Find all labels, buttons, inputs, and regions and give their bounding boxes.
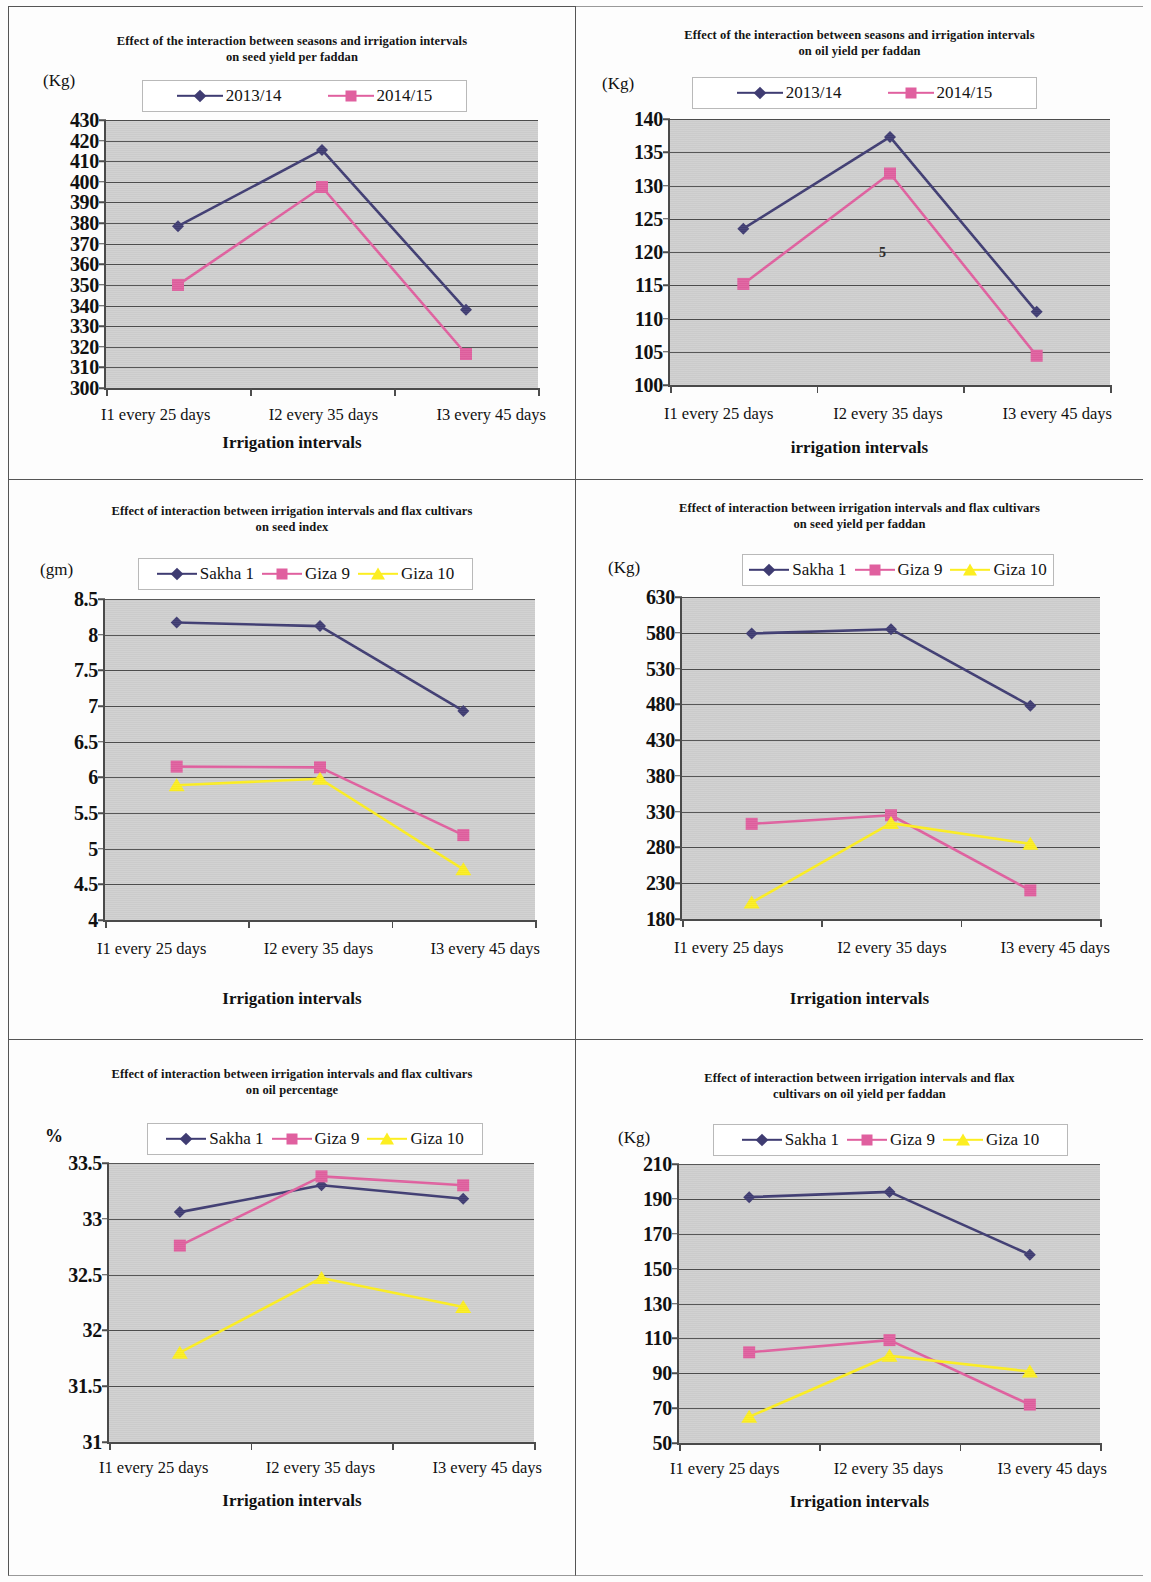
legend-marker-triangle-icon	[371, 567, 385, 579]
y-axis-tick-label: 140	[634, 108, 663, 131]
legend-marker-diamond-icon	[755, 1134, 768, 1147]
y-axis-tick-mark	[672, 1268, 679, 1270]
chart-title: Effect of interaction between irrigation…	[599, 1040, 1121, 1102]
x-axis-category-labels: I1 every 25 daysI2 every 35 daysI3 every…	[664, 404, 1112, 424]
y-axis-tick-label: 7	[88, 695, 98, 718]
chart-title-line2: on seed yield per faddan	[32, 49, 553, 65]
y-axis-tick-mark	[99, 264, 106, 266]
legend-item[interactable]: 2014/15	[888, 83, 993, 103]
legend-marker-square-icon	[869, 565, 880, 576]
legend-item[interactable]: Giza 10	[367, 1129, 463, 1149]
x-axis-category-label: I2 every 35 days	[264, 939, 374, 959]
y-axis-tick-mark	[98, 777, 105, 779]
legend-label: Sakha 1	[792, 560, 846, 580]
x-axis-title: Irrigation intervals	[9, 1491, 575, 1511]
x-axis-tick-mark	[960, 1443, 962, 1451]
legend-swatch	[749, 562, 789, 578]
legend-marker-square-icon	[862, 1135, 873, 1146]
y-axis-tick-label: 115	[635, 274, 663, 297]
y-axis-tick-label: 180	[646, 908, 675, 931]
chart-title: Effect of interaction between irrigation…	[32, 480, 553, 535]
legend-item[interactable]: 2013/14	[177, 86, 282, 106]
legend-item[interactable]: Giza 9	[262, 564, 350, 584]
y-axis-tick-mark	[99, 284, 106, 286]
y-axis-tick-label: 100	[634, 374, 663, 397]
plot-area: 180230280330380430480530580630	[680, 597, 1100, 921]
x-axis-category-label: I3 every 45 days	[1002, 404, 1112, 424]
series-layer	[679, 1164, 1100, 1443]
legend-item[interactable]: Giza 10	[943, 1130, 1039, 1150]
x-axis-tick-mark	[821, 919, 823, 927]
legend-item[interactable]: Sakha 1	[166, 1129, 263, 1149]
y-axis-tick-label: 410	[70, 150, 99, 173]
legend-item[interactable]: Giza 9	[272, 1129, 360, 1149]
y-axis-tick-label: 580	[646, 621, 675, 644]
y-axis-tick-mark	[675, 596, 682, 598]
y-axis-tick-mark	[672, 1233, 679, 1235]
y-axis-tick-label: 110	[644, 1327, 672, 1350]
series-layer	[670, 119, 1110, 385]
y-axis-unit-label: (gm)	[40, 560, 73, 580]
y-axis-tick-mark	[99, 160, 106, 162]
y-axis-tick-mark	[663, 185, 670, 187]
panel-grid: Effect of the interaction between season…	[8, 6, 1143, 1576]
data-point-diamond	[457, 1193, 469, 1205]
legend-marker	[387, 1139, 401, 1151]
legend-marker-triangle-icon	[956, 1133, 970, 1145]
chart-title-line1: Effect of the interaction between season…	[599, 27, 1121, 43]
x-axis-category-label: I3 every 45 days	[1000, 938, 1110, 958]
x-axis-title: Irrigation intervals	[9, 989, 575, 1009]
legend-item[interactable]: Giza 9	[847, 1130, 935, 1150]
y-axis-tick-mark	[99, 305, 106, 307]
legend-item[interactable]: Sakha 1	[157, 564, 254, 584]
y-axis-tick-mark	[98, 634, 105, 636]
chart-panel-seed-yield-seasons: Effect of the interaction between season…	[8, 6, 576, 480]
x-axis-tick-mark	[963, 385, 965, 393]
chart-title-line2: on oil yield per faddan	[599, 43, 1121, 59]
legend-item[interactable]: Sakha 1	[742, 1130, 839, 1150]
data-point-diamond	[171, 617, 183, 629]
y-axis-tick-label: 110	[635, 307, 663, 330]
legend-item[interactable]: Giza 10	[358, 564, 454, 584]
legend-swatch	[262, 566, 302, 582]
legend-item[interactable]: Giza 9	[855, 560, 943, 580]
x-axis-category-label: I1 every 25 days	[101, 405, 211, 425]
y-axis-tick-label: 32.5	[68, 1263, 102, 1286]
legend-marker	[963, 1140, 977, 1152]
y-axis-tick-label: 190	[643, 1187, 672, 1210]
y-axis-tick-mark	[99, 243, 106, 245]
y-axis-tick-label: 340	[70, 294, 99, 317]
chart-legend: 2013/142014/15	[142, 80, 467, 112]
series-layer	[105, 599, 535, 920]
y-axis-tick-mark	[98, 670, 105, 672]
y-axis-tick-label: 230	[646, 872, 675, 895]
x-axis-tick-mark	[250, 388, 252, 396]
chart-title-line1: Effect of interaction between irrigation…	[32, 1066, 553, 1082]
y-axis-tick-label: 32	[83, 1319, 102, 1342]
x-axis-tick-mark	[682, 919, 684, 927]
y-axis-unit-label: (Kg)	[618, 1128, 650, 1148]
data-point-diamond	[885, 623, 897, 635]
y-axis-tick-label: 300	[70, 377, 99, 400]
data-point-diamond	[746, 627, 758, 639]
legend-label: Giza 9	[890, 1130, 935, 1150]
y-axis-tick-label: 33.5	[68, 1152, 102, 1175]
legend-item[interactable]: Giza 10	[950, 560, 1046, 580]
chart-seed-index-cultivars: Effect of interaction between irrigation…	[9, 480, 575, 1039]
legend-marker-square-icon	[345, 91, 356, 102]
y-axis-tick-label: 8	[88, 623, 98, 646]
legend-item[interactable]: Sakha 1	[749, 560, 846, 580]
x-axis-tick-mark	[679, 1443, 681, 1451]
x-axis-tick-mark	[534, 1442, 536, 1450]
x-axis-category-labels: I1 every 25 daysI2 every 35 daysI3 every…	[97, 939, 540, 959]
data-point-square	[746, 818, 758, 830]
y-axis-tick-mark	[99, 325, 106, 327]
y-axis-tick-label: 370	[70, 232, 99, 255]
chart-title-line1: Effect of interaction between irrigation…	[599, 500, 1121, 516]
y-axis-tick-label: 280	[646, 836, 675, 859]
legend-item[interactable]: 2014/15	[328, 86, 433, 106]
data-point-square	[172, 279, 184, 291]
legend-marker-square-icon	[277, 569, 288, 580]
legend-item[interactable]: 2013/14	[737, 83, 842, 103]
legend-marker	[867, 1140, 878, 1151]
